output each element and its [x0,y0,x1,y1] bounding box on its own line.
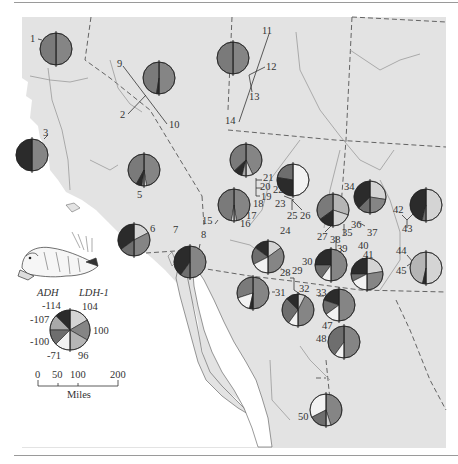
scale-tick-0: 0 [35,369,40,380]
legend-adh-71: -71 [47,350,61,361]
svg-text:27: 27 [317,231,328,242]
svg-text:42: 42 [393,204,404,215]
scale-tick-50: 50 [52,369,63,380]
svg-text:34: 34 [344,181,355,192]
svg-text:29: 29 [292,265,303,276]
svg-text:12: 12 [266,61,277,72]
svg-text:5: 5 [137,189,142,200]
svg-text:21: 21 [263,172,274,183]
svg-text:43: 43 [402,223,413,234]
svg-text:15: 15 [202,215,213,226]
legend-adh-107: -107 [30,314,49,325]
svg-text:30: 30 [302,256,313,267]
svg-text:14: 14 [225,115,236,126]
basemap [22,17,446,448]
svg-text:36: 36 [351,219,362,230]
svg-text:45: 45 [396,265,407,276]
svg-text:48: 48 [316,333,327,344]
svg-text:32: 32 [299,283,310,294]
svg-text:19: 19 [261,191,272,202]
gopher-allele-map: 1 2 3 5 6 7 8 9 10 11 12 13 14 15 16 17 … [0,0,458,464]
svg-text:33: 33 [316,287,327,298]
svg-text:26: 26 [300,210,311,221]
svg-text:24: 24 [280,225,291,236]
svg-text:6: 6 [150,223,155,234]
svg-text:2: 2 [120,109,125,120]
svg-text:7: 7 [173,224,178,235]
svg-text:47: 47 [322,320,333,331]
scale-tick-100: 100 [70,369,86,380]
svg-text:11: 11 [262,25,272,36]
svg-text:10: 10 [169,119,180,130]
legend-ldh-header: LDH-1 [78,287,109,298]
svg-text:37: 37 [367,227,378,238]
svg-text:9: 9 [117,58,122,69]
scale-tick-200: 200 [110,369,126,380]
svg-text:44: 44 [396,245,407,256]
svg-text:31: 31 [275,287,286,298]
svg-text:13: 13 [249,91,260,102]
svg-text:1: 1 [30,33,35,44]
svg-text:50: 50 [298,411,309,422]
svg-text:8: 8 [201,229,206,240]
legend-adh-header: ADH [36,287,60,298]
legend-ldh-104: 104 [82,301,99,312]
scale-unit: Miles [67,389,91,400]
legend-ldh-96: 96 [78,350,89,361]
svg-text:28: 28 [280,267,291,278]
legend-ldh-100: 100 [93,325,109,336]
legend-adh-100: -100 [30,336,49,347]
svg-text:25: 25 [287,210,298,221]
legend-adh-114: -114 [42,300,62,311]
svg-text:3: 3 [43,127,48,138]
svg-text:23: 23 [275,198,286,209]
